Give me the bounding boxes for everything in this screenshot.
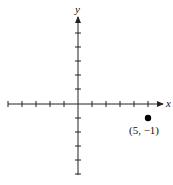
coordinate-plane: x y (5, −1) <box>0 0 173 185</box>
x-axis-label: x <box>165 97 171 109</box>
y-axis-label: y <box>74 3 80 15</box>
point-label: (5, −1) <box>129 124 159 137</box>
data-point <box>145 115 151 121</box>
